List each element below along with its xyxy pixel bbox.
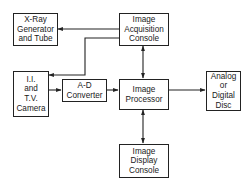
processor-line-2: Processor [126,95,163,105]
camera-line-2: and [24,84,38,94]
image-processor-box: Image Processor [119,79,169,110]
adc-line-2: Converter [67,91,103,101]
disc-line-3: Digital [212,91,235,101]
ii-tv-camera-box: I.I. and T.V. Camera [13,71,49,117]
processor-line-1: Image [133,85,156,95]
camera-line-3: T.V. [24,94,37,104]
acquisition-line-1: Image [133,15,156,25]
xray-generator-box: X-Ray Generator and Tube [13,13,58,46]
camera-line-1: I.I. [26,75,35,85]
disc-line-4: Disc [216,101,232,111]
camera-line-4: Camera [16,104,45,114]
display-line-2: Display [131,156,158,166]
display-line-3: Console [129,166,159,176]
acquisition-line-3: Console [129,34,159,44]
disc-line-2: or [220,81,227,91]
xray-line-1: X-Ray [24,15,47,25]
block-diagram: X-Ray Generator and Tube Image Acquisiti… [0,0,251,187]
adc-line-1: A-D [77,81,91,91]
ad-converter-box: A-D Converter [62,79,107,102]
acquisition-line-2: Acquisition [124,25,164,35]
display-line-1: Image [133,147,156,157]
image-display-console-box: Image Display Console [119,144,169,178]
disc-line-1: Analog [211,72,237,82]
arrow-acquisition-to-camera [49,38,119,75]
xray-line-3: and Tube [18,34,52,44]
xray-line-2: Generator [17,25,54,35]
analog-digital-disc-box: Analog or Digital Disc [206,71,241,111]
image-acquisition-console-box: Image Acquisition Console [119,13,169,46]
